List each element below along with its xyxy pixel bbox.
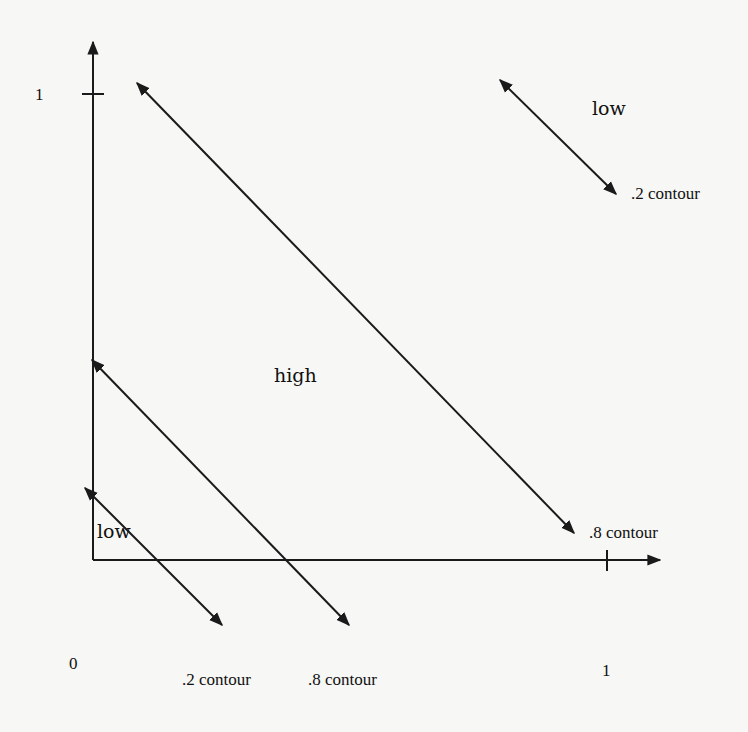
contour-label-lower-08: .8 contour [308, 670, 377, 689]
contour-line-upper-08 [137, 83, 574, 533]
region-label-high: high [274, 364, 317, 386]
origin-label: 0 [69, 654, 78, 673]
y-tick-label-1: 1 [35, 85, 44, 104]
contour-diagram: 1 1 0 .2 contour .8 contour .8 contour .… [0, 0, 748, 732]
contour-line-lower-08 [92, 360, 349, 625]
x-tick-label-1: 1 [602, 661, 611, 680]
contour-label-lower-02: .2 contour [182, 670, 251, 689]
region-label-low-lower-left: low [97, 520, 132, 542]
contour-line-lower-02 [85, 488, 222, 625]
contour-label-upper-02: .2 contour [631, 184, 700, 203]
region-label-low-upper-right: low [592, 97, 627, 119]
contour-label-upper-08: .8 contour [589, 523, 658, 542]
